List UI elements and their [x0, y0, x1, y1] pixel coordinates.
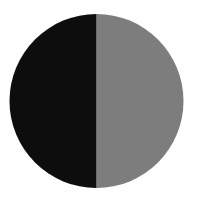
half-filled-circle-graphic	[0, 0, 201, 197]
figure-canvas	[0, 0, 201, 197]
